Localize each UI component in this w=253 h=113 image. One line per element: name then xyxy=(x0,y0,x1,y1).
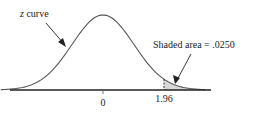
z-curve-figure: 0 1.96 z curve Shaded area = .0250 xyxy=(0,0,253,113)
z-curve-chart: 0 1.96 z curve Shaded area = .0250 xyxy=(0,0,253,113)
shaded-area-arrow-shaft xyxy=(177,54,191,80)
tick-label-zero: 0 xyxy=(101,97,106,108)
z-curve-label: z curve xyxy=(19,8,49,19)
tick-label-critical: 1.96 xyxy=(155,93,173,104)
shaded-area-label: Shaded area = .0250 xyxy=(153,39,235,50)
z-curve-arrow-head-icon xyxy=(58,38,66,47)
shaded-tail-region xyxy=(164,79,206,90)
